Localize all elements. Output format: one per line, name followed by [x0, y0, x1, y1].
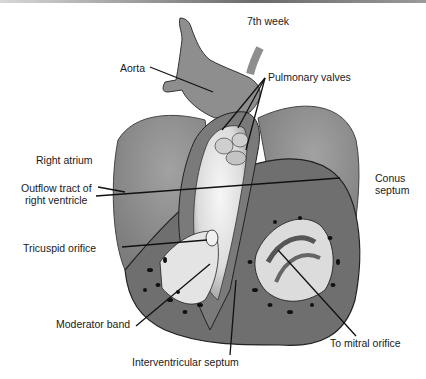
- label-pulmonary-valves: Pulmonary valves: [268, 71, 351, 83]
- pulmonary-cusp-3: [226, 151, 246, 165]
- aorta-shape: [163, 18, 260, 118]
- label-interventricular-septum: Interventricular septum: [132, 356, 239, 368]
- pulmonary-cusp-1: [215, 138, 233, 154]
- label-tricuspid-orifice: Tricuspid orifice: [23, 242, 96, 254]
- label-moderator-band: Moderator band: [56, 318, 130, 330]
- label-outflow-tract-line2: right ventricle: [25, 194, 87, 206]
- label-mitral-orifice: To mitral orifice: [330, 337, 401, 349]
- pulmonary-cusp-2: [232, 133, 248, 147]
- label-outflow-tract-line1: Outflow tract of: [21, 182, 92, 194]
- label-aorta: Aorta: [120, 62, 145, 74]
- figure-title: 7th week: [247, 15, 289, 27]
- label-right-atrium: Right atrium: [36, 154, 93, 166]
- tricuspid-orifice-shape: [206, 230, 218, 246]
- label-conus-septum-line1: Conus: [375, 172, 405, 184]
- label-conus-septum-line2: septum: [375, 184, 409, 196]
